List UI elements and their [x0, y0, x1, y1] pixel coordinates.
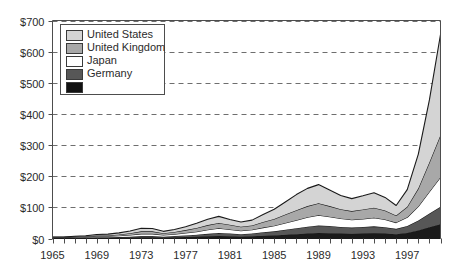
- legend-label-united-states: United States: [87, 28, 154, 40]
- x-tick-label-1989: 1989: [306, 249, 330, 261]
- legend-swatch-3: [67, 57, 83, 67]
- legend-swatch-2: [67, 44, 83, 54]
- legend-swatch-1: [67, 31, 83, 41]
- chart-container: $0$100$200$300$400$500$600$700 196519691…: [0, 0, 453, 280]
- legend-label-japan: Japan: [87, 54, 117, 66]
- x-tick-label-1985: 1985: [262, 249, 286, 261]
- y-tick-label-600: $600: [20, 47, 44, 59]
- y-tick-label-100: $100: [20, 202, 44, 214]
- y-tick-label-300: $300: [20, 140, 44, 152]
- y-tick-label-700: $700: [20, 16, 44, 28]
- x-tick-label-1973: 1973: [129, 249, 153, 261]
- legend-label-united-kingdom: United Kingdom: [87, 41, 165, 53]
- chart-legend[interactable]: United StatesUnited KingdomJapanGermany: [61, 25, 166, 95]
- x-tick-label-1965: 1965: [40, 249, 64, 261]
- stacked-area-chart: $0$100$200$300$400$500$600$700 196519691…: [0, 0, 453, 280]
- y-tick-label-0: $0: [32, 234, 44, 246]
- legend-swatch-4: [67, 70, 83, 80]
- x-tick-label-1981: 1981: [218, 249, 242, 261]
- x-axis-labels: 196519691973197719811985198919931997: [40, 249, 419, 261]
- y-tick-label-500: $500: [20, 78, 44, 90]
- y-tick-label-400: $400: [20, 109, 44, 121]
- x-tick-label-1993: 1993: [351, 249, 375, 261]
- legend-swatch-5: [67, 83, 83, 93]
- x-tick-label-1997: 1997: [395, 249, 419, 261]
- y-tick-label-200: $200: [20, 171, 44, 183]
- x-tick-label-1977: 1977: [173, 249, 197, 261]
- x-tick-label-1969: 1969: [85, 249, 109, 261]
- legend-label-germany: Germany: [87, 67, 133, 79]
